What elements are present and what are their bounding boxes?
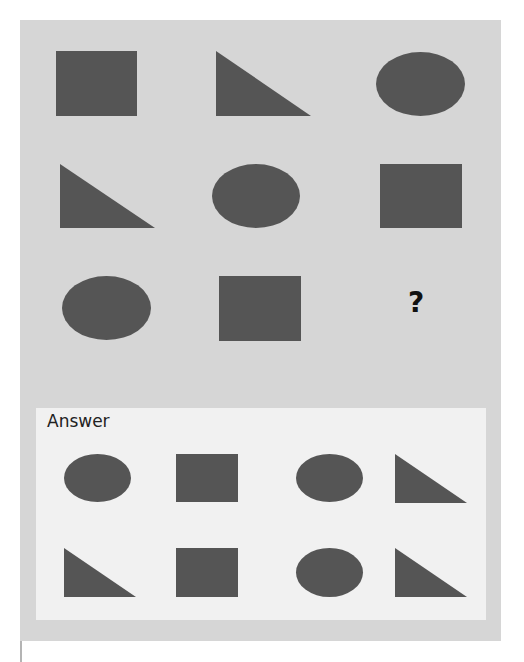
answer-option-3-ellipse-icon[interactable] (296, 454, 363, 502)
grid-r2c3-square-icon (380, 164, 462, 228)
grid-r1c1-square-icon (56, 51, 137, 116)
answer-option-7-ellipse-icon[interactable] (296, 548, 363, 597)
answer-label: Answer (47, 410, 110, 432)
answer-option-1-ellipse-icon[interactable] (64, 454, 131, 502)
answer-option-6-square-icon[interactable] (176, 548, 238, 597)
grid-r2c2-ellipse-icon (212, 164, 300, 228)
grid-r1c3-ellipse-icon (376, 52, 465, 116)
grid-r3c2-square-icon (219, 276, 301, 341)
missing-cell-question-mark: ? (404, 283, 428, 323)
grid-r3c1-ellipse-icon (62, 276, 151, 340)
answer-option-2-square-icon[interactable] (176, 454, 238, 502)
